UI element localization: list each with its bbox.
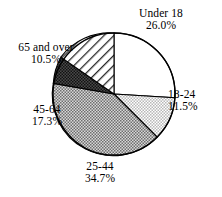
pie-label-45-64-percent: 17.3% <box>16 115 78 127</box>
pie-label-45-64: 45-64 17.3% <box>16 103 78 128</box>
pie-label-18-24: 18-24 11.5% <box>168 88 222 113</box>
pie-label-under-18: Under 18 26.0% <box>118 7 204 32</box>
pie-label-65-and-over-category: 65 and over <box>4 41 88 53</box>
pie-label-25-44-category: 25-44 <box>64 160 136 172</box>
pie-label-18-24-category: 18-24 <box>168 88 222 100</box>
pie-label-25-44: 25-44 34.7% <box>64 160 136 185</box>
pie-chart: Under 18 26.0% 18-24 11.5% 25-44 34.7% 4… <box>0 0 222 197</box>
pie-label-under-18-category: Under 18 <box>118 7 204 19</box>
pie-label-65-and-over: 65 and over 10.5% <box>4 41 88 66</box>
pie-label-under-18-percent: 26.0% <box>118 19 204 31</box>
pie-label-65-and-over-percent: 10.5% <box>4 53 88 65</box>
pie-label-18-24-percent: 11.5% <box>168 100 222 112</box>
pie-label-45-64-category: 45-64 <box>16 103 78 115</box>
pie-label-25-44-percent: 34.7% <box>64 172 136 184</box>
pie-slice-under-18[interactable] <box>114 33 175 98</box>
